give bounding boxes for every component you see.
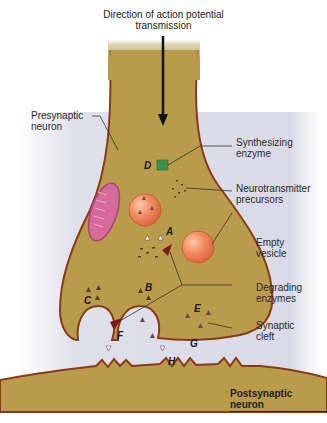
label-postsynaptic-neuron: Postsynaptic neuron bbox=[230, 388, 327, 412]
label-line: Neurotransmitter bbox=[236, 183, 310, 194]
label-line: Degrading bbox=[256, 282, 302, 293]
label-line: enzymes bbox=[256, 293, 302, 304]
label-presynaptic-neuron: Presynaptic neuron bbox=[31, 110, 83, 132]
letter-b: B bbox=[145, 282, 152, 293]
letter-e: E bbox=[194, 303, 201, 314]
label-line: Synthesizing bbox=[236, 137, 293, 148]
title-line-2: transmission bbox=[0, 20, 327, 31]
label-synaptic-cleft: Synaptic cleft bbox=[256, 320, 294, 342]
label-synthesizing-enzyme: Synthesizing enzyme bbox=[236, 137, 293, 159]
synapse-illustration bbox=[0, 0, 327, 423]
label-line: Synaptic bbox=[256, 320, 294, 331]
label-line: enzyme bbox=[236, 148, 293, 159]
empty-vesicle bbox=[182, 231, 214, 263]
title-line-1: Direction of action potential bbox=[0, 9, 327, 20]
diagram-title: Direction of action potential transmissi… bbox=[0, 9, 327, 31]
label-line: cleft bbox=[256, 331, 294, 342]
synapse-diagram: Direction of action potential transmissi… bbox=[0, 0, 327, 423]
label-line: vesicle bbox=[256, 248, 287, 259]
synthesizing-enzyme bbox=[157, 160, 168, 170]
letter-g: G bbox=[190, 338, 198, 349]
letter-f: F bbox=[117, 330, 123, 341]
label-line: neuron bbox=[31, 121, 83, 132]
letter-d: D bbox=[144, 160, 151, 171]
letter-h: H bbox=[168, 356, 175, 367]
label-neurotransmitter-precursors: Neurotransmitter precursors bbox=[236, 183, 310, 205]
letter-c: C bbox=[84, 295, 91, 306]
label-empty-vesicle: Empty vesicle bbox=[256, 237, 287, 259]
label-degrading-enzymes: Degrading enzymes bbox=[256, 282, 302, 304]
label-line: Presynaptic bbox=[31, 110, 83, 121]
label-line: Empty bbox=[256, 237, 287, 248]
letter-a: A bbox=[166, 226, 173, 237]
label-line: precursors bbox=[236, 194, 310, 205]
